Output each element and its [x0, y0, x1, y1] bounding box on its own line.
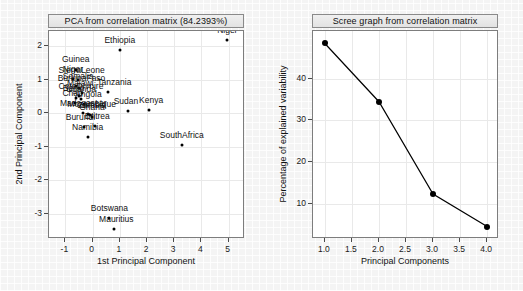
axis-tick-label-x: 1	[116, 244, 121, 254]
data-point	[126, 109, 129, 112]
data-point	[86, 135, 89, 138]
axis-tick-label-y: -3	[22, 208, 42, 218]
axis-tick-label-x: 5	[225, 244, 230, 254]
axis-tick-y	[308, 119, 312, 120]
gridline-horizontal	[49, 214, 243, 215]
data-point	[226, 39, 229, 42]
point-label: Mauritius	[99, 214, 133, 224]
data-point	[148, 108, 151, 111]
axis-tick-label-x: 2.5	[399, 244, 411, 254]
axis-tick-label-y: 30	[286, 114, 306, 124]
point-label: Eritrea	[85, 111, 110, 121]
scree-data-point	[484, 224, 490, 230]
axis-tick-y	[308, 78, 312, 79]
pca-title: PCA from correlation matrix (84.2393%)	[65, 16, 228, 26]
point-label: Kenya	[139, 95, 163, 105]
axis-tick-x	[405, 238, 406, 242]
axis-tick-y	[44, 112, 48, 113]
axis-tick-label-x: 1.5	[345, 244, 357, 254]
data-point	[118, 49, 121, 52]
axis-tick-label-y: 1	[22, 74, 42, 84]
scree-line	[313, 31, 498, 238]
axis-tick-label-x: 3.5	[453, 244, 465, 254]
axis-tick-x	[173, 238, 174, 242]
axis-tick-label-x: 0	[89, 244, 94, 254]
data-point	[113, 227, 116, 230]
x-axis-title: Principal Components	[361, 256, 449, 266]
axis-tick-x	[432, 238, 433, 242]
axis-tick-x	[486, 238, 487, 242]
pca-plot-area: NigerEthiopiaGuineaNigerSierraLeoneSomal…	[48, 30, 244, 238]
pca-title-strip: PCA from correlation matrix (84.2393%)	[48, 14, 244, 28]
axis-tick-y	[308, 203, 312, 204]
axis-tick-x	[64, 238, 65, 242]
scree-data-point	[376, 99, 382, 105]
point-label: Sudan	[114, 96, 139, 106]
axis-tick-label-y: 0	[22, 107, 42, 117]
x-axis-title: 1st Principal Component	[97, 256, 195, 266]
data-point	[107, 91, 110, 94]
axis-tick-x	[228, 238, 229, 242]
gridline-horizontal	[49, 147, 243, 148]
point-label: Botswana	[91, 203, 128, 213]
gridline-horizontal	[49, 180, 243, 181]
gridline-vertical	[147, 31, 148, 237]
axis-tick-label-x: 4	[198, 244, 203, 254]
axis-tick-x	[459, 238, 460, 242]
point-label: Ethiopia	[104, 35, 135, 45]
axis-tick-label-y: 20	[286, 156, 306, 166]
axis-tick-y	[44, 146, 48, 147]
axis-tick-y	[44, 79, 48, 80]
axis-tick-y	[44, 179, 48, 180]
point-label: Namibia	[72, 122, 103, 132]
scree-plot-area	[312, 30, 498, 238]
axis-tick-x	[119, 238, 120, 242]
axis-tick-label-x: 4.0	[480, 244, 492, 254]
axis-tick-x	[200, 238, 201, 242]
point-label: SouthAfrica	[160, 130, 204, 140]
axis-tick-y	[308, 161, 312, 162]
point-label: Niger	[217, 30, 237, 35]
gridline-horizontal	[49, 46, 243, 47]
scree-data-point	[430, 191, 436, 197]
axis-tick-y	[44, 213, 48, 214]
scree-title-strip: Scree graph from correlation matrix	[312, 14, 498, 28]
y-axis-title: Percentage of explained variability	[278, 65, 288, 202]
axis-tick-label-y: -2	[22, 174, 42, 184]
scree-data-point	[322, 40, 328, 46]
axis-tick-label-y: -1	[22, 141, 42, 151]
axis-tick-x	[92, 238, 93, 242]
axis-tick-x	[351, 238, 352, 242]
axis-tick-y	[44, 45, 48, 46]
axis-tick-label-y: 2	[22, 40, 42, 50]
axis-tick-label-y: 10	[286, 198, 306, 208]
axis-tick-label-y: 40	[286, 73, 306, 83]
axis-tick-label-x: 2	[144, 244, 149, 254]
statistical-figure: PCA from correlation matrix (84.2393%)Ni…	[0, 0, 523, 291]
axis-tick-x	[324, 238, 325, 242]
point-label: Guinea	[62, 54, 89, 64]
y-axis-title: 2nd Principal Component	[14, 83, 24, 184]
axis-tick-label-x: 3.0	[426, 244, 438, 254]
axis-tick-x	[378, 238, 379, 242]
axis-tick-label-x: -1	[61, 244, 69, 254]
scree-title: Scree graph from correlation matrix	[333, 16, 478, 26]
data-point	[180, 144, 183, 147]
axis-tick-label-x: 1.0	[318, 244, 330, 254]
gridline-vertical	[229, 31, 230, 237]
axis-tick-label-x: 3	[171, 244, 176, 254]
axis-tick-x	[146, 238, 147, 242]
axis-tick-label-x: 2.0	[372, 244, 384, 254]
